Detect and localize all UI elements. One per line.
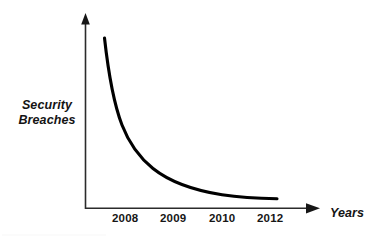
y-axis-label: Security Breaches xyxy=(14,98,80,129)
y-axis-label-line-1: Security xyxy=(14,98,80,113)
security-breaches-curve xyxy=(105,38,278,199)
arrow-right-icon xyxy=(306,203,320,213)
chart-canvas: Security Breaches Years 2008 2009 2010 2… xyxy=(0,0,378,241)
y-axis-label-line-2: Breaches xyxy=(14,113,80,128)
bottom-edge-artifact xyxy=(2,234,106,236)
x-axis-label: Years xyxy=(330,206,364,221)
x-tick-label-2012: 2012 xyxy=(257,212,283,224)
x-tick-label-2008: 2008 xyxy=(112,212,138,224)
arrow-up-icon xyxy=(81,13,90,25)
x-tick-label-2009: 2009 xyxy=(160,212,186,224)
x-tick-label-2010: 2010 xyxy=(209,212,235,224)
